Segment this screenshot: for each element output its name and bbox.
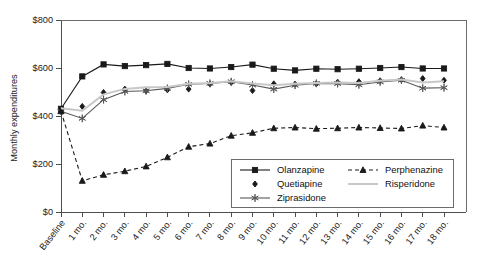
data-point-square [207, 66, 212, 71]
data-point-square [399, 64, 404, 69]
series-risperidone [61, 80, 444, 111]
data-point-triangle [186, 144, 192, 150]
data-point-square [378, 65, 383, 70]
data-point-square [250, 62, 255, 67]
x-tick-label: 17 mo. [404, 218, 429, 246]
x-tick-label: 14 mo. [340, 218, 365, 246]
data-point-square [292, 68, 297, 73]
x-tick-label: 5 mo. [151, 218, 173, 242]
data-point-diamond [442, 77, 447, 83]
x-tick-label: 4 mo. [130, 218, 152, 242]
y-tick-label: $800 [33, 15, 53, 25]
y-axis-title: Monthly expenditures [9, 74, 19, 162]
y-tick-label: $400 [33, 111, 53, 121]
y-tick-label: $0 [43, 207, 53, 217]
data-point-square [335, 67, 340, 72]
x-tick-label: Baseline [37, 218, 67, 252]
y-axis-label: Monthly expenditures [9, 74, 19, 162]
legend-label: Quetiapine [277, 178, 322, 189]
x-tick-label: 7 mo. [194, 218, 216, 242]
y-tick-label: $200 [33, 159, 53, 169]
data-point-square [314, 66, 319, 71]
data-point-square [441, 66, 446, 71]
x-tick-label: 3 mo. [109, 218, 131, 242]
x-tick-label: 13 mo. [319, 218, 344, 246]
chart-figure: Monthly expenditures $0$200$400$600$800 … [0, 0, 481, 263]
legend-label: Risperidone [385, 178, 435, 189]
data-point-square [271, 66, 276, 71]
data-point-square [420, 66, 425, 71]
data-point-square [356, 66, 361, 71]
chart-legend: OlanzapineQuetiapineZiprasidonePerphenaz… [231, 159, 453, 207]
x-tick-label: 1 mo. [66, 218, 88, 242]
data-point-square [186, 65, 191, 70]
x-tick-label: 6 mo. [173, 218, 195, 242]
legend-label: Olanzapine [277, 164, 324, 175]
data-point-square [122, 63, 127, 68]
x-tick-label: 8 mo. [215, 218, 237, 242]
data-point-square [101, 62, 106, 67]
expenditures-line-chart: Monthly expenditures $0$200$400$600$800 … [0, 0, 481, 263]
data-point-triangle [207, 140, 213, 146]
data-point-triangle [122, 168, 128, 174]
data-point-triangle [79, 178, 85, 184]
x-axis-ticks: Baseline1 mo.2 mo.3 mo.4 mo.5 mo.6 mo.7 … [37, 212, 450, 252]
legend-label: Ziprasidone [277, 192, 326, 203]
legend-label: Perphenazine [385, 164, 443, 175]
x-tick-label: 10 mo. [255, 218, 280, 246]
x-tick-label: 12 mo. [297, 218, 322, 246]
series-line [61, 80, 444, 111]
data-point-diamond [420, 76, 425, 82]
x-tick-label: 15 mo. [361, 218, 386, 246]
data-point-square [229, 64, 234, 69]
data-point-triangle [101, 172, 107, 178]
x-tick-label: 16 mo. [382, 218, 407, 246]
y-tick-label: $600 [33, 63, 53, 73]
x-tick-label: 2 mo. [88, 218, 110, 242]
data-point-square [80, 74, 85, 79]
data-point-triangle [164, 154, 170, 160]
x-tick-label: 11 mo. [276, 218, 301, 246]
y-axis-ticks: $0$200$400$600$800 [33, 15, 61, 217]
data-point-square [252, 167, 257, 172]
x-tick-label: 18 mo. [425, 218, 450, 246]
data-point-square [144, 63, 149, 68]
data-point-square [165, 61, 170, 66]
